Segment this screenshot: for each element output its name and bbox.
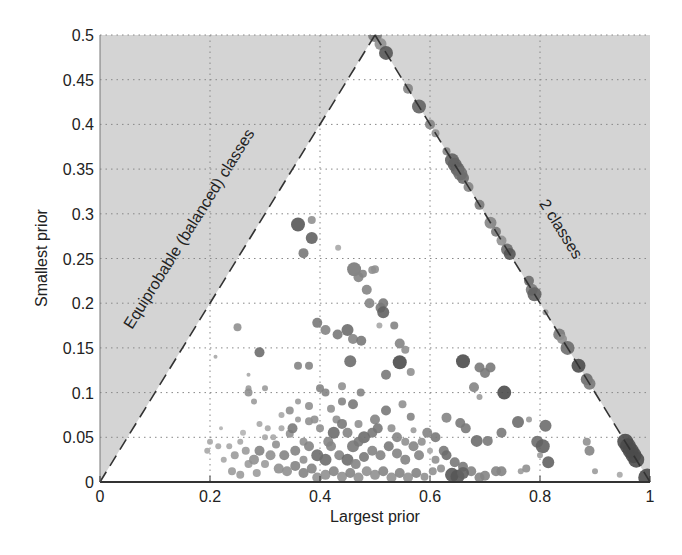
data-point	[526, 416, 532, 422]
data-point	[355, 420, 363, 428]
data-point	[362, 285, 372, 295]
data-point	[370, 414, 380, 424]
data-point	[480, 471, 490, 481]
data-point	[457, 467, 469, 479]
data-point	[399, 400, 407, 408]
x-axis-label: Largest prior	[330, 508, 420, 525]
data-point	[247, 373, 251, 377]
data-point	[288, 423, 298, 433]
data-point	[321, 325, 331, 335]
data-point	[266, 450, 276, 460]
data-point	[429, 467, 437, 475]
data-point	[207, 439, 213, 445]
x-tick-label: 0	[96, 488, 105, 505]
data-point	[265, 425, 271, 431]
data-point	[333, 329, 343, 339]
data-point	[437, 465, 445, 473]
data-point	[583, 438, 591, 446]
data-point	[299, 248, 309, 258]
data-point	[226, 443, 232, 449]
data-point	[305, 362, 313, 370]
data-point	[240, 430, 246, 436]
data-point	[537, 452, 543, 458]
data-point	[242, 447, 250, 455]
data-point	[388, 424, 396, 432]
y-axis-ticks: 00.050.10.150.20.250.30.350.40.450.5	[63, 27, 94, 491]
data-point	[316, 424, 324, 432]
data-point	[432, 456, 440, 464]
data-point	[221, 457, 227, 463]
y-tick-label: 0.05	[63, 429, 94, 446]
data-point	[335, 245, 341, 251]
data-point	[308, 216, 316, 224]
data-point	[257, 421, 263, 427]
data-point	[486, 363, 496, 373]
data-point	[469, 382, 479, 392]
data-point	[411, 427, 417, 433]
data-point	[442, 450, 452, 460]
x-tick-label: 1	[646, 488, 655, 505]
data-point	[351, 459, 361, 469]
data-point	[307, 464, 317, 474]
data-point	[365, 298, 375, 308]
data-point	[322, 389, 330, 397]
data-point	[378, 466, 388, 476]
y-tick-label: 0.5	[72, 27, 94, 44]
data-point	[286, 406, 294, 414]
data-point	[592, 468, 598, 474]
data-point	[304, 441, 314, 451]
data-point	[234, 323, 242, 331]
y-tick-label: 0.3	[72, 206, 94, 223]
data-point	[477, 394, 483, 400]
data-point	[409, 441, 419, 451]
data-point	[323, 437, 333, 447]
x-tick-label: 0.6	[419, 488, 441, 505]
data-point	[215, 443, 221, 449]
data-point	[407, 413, 415, 421]
data-point	[338, 382, 346, 390]
data-point	[262, 434, 268, 440]
data-point	[414, 450, 424, 460]
data-point	[344, 355, 356, 367]
y-tick-label: 0	[85, 474, 94, 491]
data-point	[471, 435, 483, 447]
y-tick-label: 0.2	[72, 295, 94, 312]
data-point	[348, 399, 358, 409]
data-point	[381, 405, 391, 415]
data-point	[255, 347, 265, 357]
data-point	[231, 451, 239, 459]
data-point	[249, 455, 259, 465]
data-point	[343, 428, 353, 438]
data-point	[421, 473, 429, 481]
data-point	[245, 389, 253, 397]
data-point	[400, 455, 410, 465]
data-point	[512, 416, 524, 428]
data-point	[300, 456, 308, 464]
data-point	[540, 420, 552, 432]
data-point	[376, 450, 386, 460]
data-point	[461, 423, 471, 433]
data-point	[431, 432, 441, 442]
data-point	[359, 452, 369, 462]
scatter-chart: 00.20.40.60.81 00.050.10.150.20.250.30.3…	[0, 0, 682, 555]
data-point	[542, 456, 554, 468]
data-point	[407, 368, 415, 376]
data-point	[305, 402, 313, 410]
data-point	[272, 440, 280, 448]
data-point	[295, 416, 301, 422]
data-point	[483, 436, 493, 446]
data-point	[294, 362, 302, 370]
data-point	[338, 398, 346, 406]
data-point	[418, 438, 426, 446]
data-point	[356, 336, 366, 346]
data-point	[392, 432, 402, 442]
data-point	[279, 412, 285, 418]
data-point	[214, 355, 218, 359]
data-point	[270, 434, 276, 440]
data-point	[251, 399, 257, 405]
y-tick-label: 0.15	[63, 340, 94, 357]
data-point	[497, 466, 507, 476]
y-tick-label: 0.45	[63, 72, 94, 89]
data-point	[290, 446, 300, 456]
data-point	[354, 272, 364, 282]
